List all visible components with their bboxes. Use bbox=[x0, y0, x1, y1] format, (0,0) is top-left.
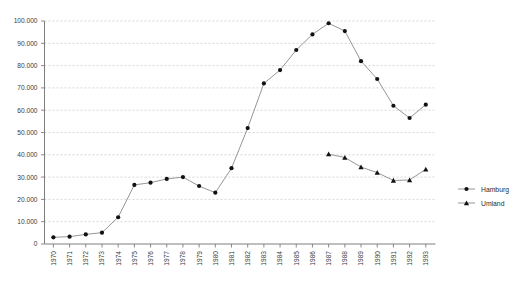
x-axis-tick-label: 1985 bbox=[293, 251, 300, 266]
data-point-marker bbox=[326, 152, 331, 157]
y-axis-tick-label: 40.000 bbox=[17, 151, 38, 158]
data-point-marker bbox=[359, 59, 363, 63]
chart-legend: HamburgUmland bbox=[458, 186, 509, 207]
x-axis-tick-label: 1981 bbox=[228, 251, 235, 266]
data-point-marker bbox=[375, 77, 379, 81]
legend-label: Umland bbox=[481, 200, 505, 207]
data-point-marker bbox=[343, 29, 347, 33]
series-line-hamburg bbox=[53, 23, 425, 237]
line-chart-figure: 010.00020.00030.00040.00050.00060.00070.… bbox=[0, 0, 522, 293]
x-axis-tick-label: 1970 bbox=[50, 251, 57, 266]
x-axis-tick-label: 1989 bbox=[357, 251, 364, 266]
data-point-marker bbox=[84, 232, 88, 236]
x-axis-tick-label: 1983 bbox=[260, 251, 267, 266]
data-series-group bbox=[51, 21, 428, 239]
x-axis-tick-label: 1976 bbox=[147, 251, 154, 266]
y-axis-tick-label: 20.000 bbox=[17, 196, 38, 203]
series-umland bbox=[326, 152, 428, 183]
data-point-marker bbox=[246, 126, 250, 130]
data-point-marker bbox=[310, 32, 314, 36]
y-axis-tick-label: 100.000 bbox=[14, 17, 38, 24]
data-point-marker bbox=[165, 177, 169, 181]
x-axis-tick-label: 1986 bbox=[309, 251, 316, 266]
x-axis-tick-label: 1971 bbox=[66, 251, 73, 266]
x-axis-tick-label: 1974 bbox=[115, 251, 122, 266]
data-point-marker bbox=[278, 68, 282, 72]
y-axis-tick-labels: 010.00020.00030.00040.00050.00060.00070.… bbox=[14, 17, 38, 247]
data-point-marker bbox=[132, 183, 136, 187]
x-axis-tick-label: 1977 bbox=[163, 251, 170, 266]
y-axis-tick-label: 50.000 bbox=[17, 129, 38, 136]
data-point-marker bbox=[262, 81, 266, 85]
x-axis-tick-label: 1987 bbox=[325, 251, 332, 266]
x-axis-tick-label: 1975 bbox=[131, 251, 138, 266]
x-axis-tick-label: 1988 bbox=[341, 251, 348, 266]
axes-group bbox=[41, 21, 436, 248]
y-axis-tick-label: 0 bbox=[34, 240, 38, 247]
x-axis-tick-label: 1979 bbox=[196, 251, 203, 266]
x-axis-tick-label: 1991 bbox=[390, 251, 397, 266]
data-point-marker bbox=[181, 175, 185, 179]
x-axis-tick-label: 1980 bbox=[212, 251, 219, 266]
x-axis-tick-label: 1973 bbox=[98, 251, 105, 266]
y-axis-tick-label: 60.000 bbox=[17, 107, 38, 114]
data-point-marker bbox=[197, 184, 201, 188]
data-point-marker bbox=[229, 166, 233, 170]
series-hamburg bbox=[51, 21, 428, 239]
data-point-marker bbox=[407, 116, 411, 120]
data-point-marker bbox=[67, 235, 71, 239]
x-axis-tick-labels: 1970197119721973197419751976197719781979… bbox=[50, 251, 429, 266]
legend-marker-circle-icon bbox=[464, 187, 468, 191]
chart-canvas: 010.00020.00030.00040.00050.00060.00070.… bbox=[0, 0, 522, 293]
y-axis-tick-label: 90.000 bbox=[17, 40, 38, 47]
y-axis-tick-label: 30.000 bbox=[17, 174, 38, 181]
y-axis-tick-label: 70.000 bbox=[17, 84, 38, 91]
data-point-marker bbox=[424, 103, 428, 107]
data-point-marker bbox=[51, 235, 55, 239]
x-axis-tick-label: 1993 bbox=[422, 251, 429, 266]
data-point-marker bbox=[327, 21, 331, 25]
x-axis-tick-label: 1992 bbox=[406, 251, 413, 266]
legend-label: Hamburg bbox=[481, 186, 509, 194]
x-axis-tick-label: 1982 bbox=[244, 251, 251, 266]
x-axis-tick-label: 1972 bbox=[82, 251, 89, 266]
data-point-marker bbox=[358, 164, 363, 169]
x-axis-tick-label: 1984 bbox=[276, 251, 283, 266]
x-axis-tick-label: 1990 bbox=[374, 251, 381, 266]
y-axis-tick-label: 10.000 bbox=[17, 218, 38, 225]
gridlines-group bbox=[45, 21, 436, 222]
data-point-marker bbox=[100, 231, 104, 235]
x-axis-tick-label: 1978 bbox=[179, 251, 186, 266]
data-point-marker bbox=[294, 48, 298, 52]
y-axis-tick-label: 80.000 bbox=[17, 62, 38, 69]
data-point-marker bbox=[391, 104, 395, 108]
data-point-marker bbox=[116, 215, 120, 219]
data-point-marker bbox=[213, 191, 217, 195]
data-point-marker bbox=[423, 167, 428, 172]
data-point-marker bbox=[148, 181, 152, 185]
legend-item-hamburg[interactable]: Hamburg bbox=[458, 186, 509, 194]
legend-item-umland[interactable]: Umland bbox=[458, 200, 505, 207]
